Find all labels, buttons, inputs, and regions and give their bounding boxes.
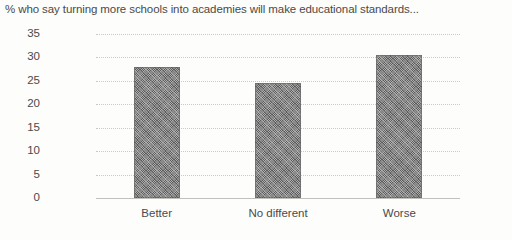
chart-title: % who say turning more schools into acad…	[5, 2, 509, 17]
y-axis-tick-label-20: 20	[4, 98, 40, 110]
y-axis-tick-label-35: 35	[4, 28, 40, 40]
bar-group	[134, 34, 180, 198]
bar-worse	[376, 55, 422, 198]
y-axis-tick-label-25: 25	[4, 75, 40, 87]
bar-no-different	[255, 83, 301, 198]
x-axis-label-better: Better	[141, 206, 172, 220]
y-axis-tick-label-10: 10	[4, 145, 40, 157]
x-axis-category-labels: BetterNo differentWorse	[96, 206, 460, 230]
y-axis-tick-label-0: 0	[4, 192, 40, 204]
bar-group	[376, 34, 422, 198]
chart-plot-area: 05101520253035 BetterNo differentWorse	[0, 26, 512, 240]
gridline-0	[96, 198, 460, 200]
bar-series	[96, 34, 460, 198]
plot-inner: 05101520253035	[96, 34, 460, 198]
x-axis-label-worse: Worse	[383, 206, 416, 220]
y-axis-tick-label-5: 5	[4, 169, 40, 181]
y-axis-tick-label-15: 15	[4, 122, 40, 134]
y-axis-tick-label-30: 30	[4, 51, 40, 63]
bar-group	[255, 34, 301, 198]
x-axis-label-no-different: No different	[248, 206, 307, 220]
bar-better	[134, 67, 180, 198]
